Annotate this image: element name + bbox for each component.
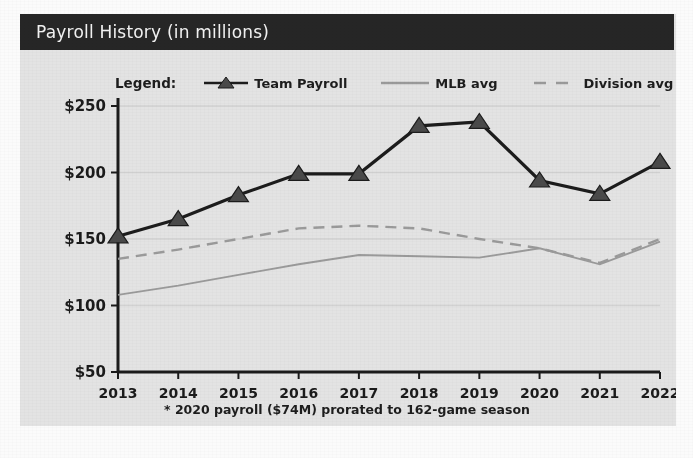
series-line-team-payroll (118, 122, 660, 236)
x-axis-tick-label: 2015 (219, 385, 258, 401)
chart-plot-area: $50$100$150$200$250201320142015201620172… (20, 84, 676, 426)
x-axis-tick-label: 2014 (159, 385, 198, 401)
chart-footnote: * 2020 payroll ($74M) prorated to 162-ga… (20, 402, 674, 417)
series-line-division-avg (118, 226, 660, 263)
y-axis-tick-label: $200 (64, 164, 106, 182)
y-axis-tick-label: $100 (64, 297, 106, 315)
x-axis-tick-label: 2020 (520, 385, 559, 401)
x-axis-tick-label: 2017 (339, 385, 378, 401)
y-axis-tick-label: $50 (75, 363, 106, 381)
x-axis-tick-label: 2018 (400, 385, 439, 401)
payroll-history-chart: $50$100$150$200$250201320142015201620172… (20, 84, 676, 404)
data-point-marker (650, 153, 670, 168)
data-point-marker (168, 211, 188, 226)
screenshot-page: Payroll History (in millions) Legend: Te… (0, 0, 693, 458)
page-title: Payroll History (in millions) (36, 22, 269, 42)
y-axis-tick-label: $150 (64, 230, 106, 248)
y-axis-tick-label: $250 (64, 97, 106, 115)
series-line-mlb-avg (118, 242, 660, 295)
payroll-history-card: Payroll History (in millions) Legend: Te… (20, 14, 676, 426)
x-axis-tick-label: 2019 (460, 385, 499, 401)
x-axis-tick-label: 2021 (580, 385, 619, 401)
x-axis-tick-label: 2016 (279, 385, 318, 401)
x-axis-tick-label: 2022 (641, 385, 676, 401)
x-axis-tick-label: 2013 (99, 385, 138, 401)
card-header-bar: Payroll History (in millions) (20, 14, 674, 50)
